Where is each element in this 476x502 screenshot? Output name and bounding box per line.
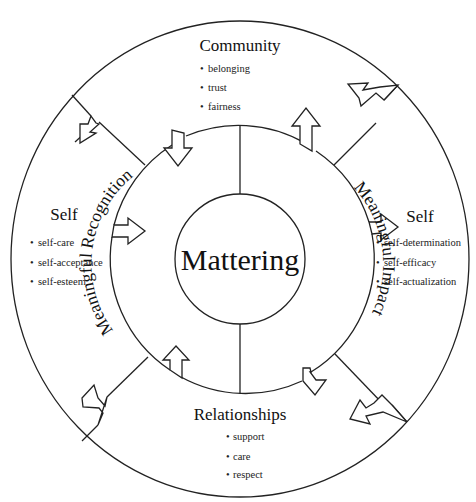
self-left-item: self-acceptance	[38, 257, 103, 268]
bullet-icon: •	[30, 257, 34, 268]
self-left-item: self-esteem	[38, 276, 86, 287]
bullet-icon: •	[200, 101, 204, 112]
community-item: fairness	[208, 101, 241, 112]
bullet-icon: •	[200, 63, 204, 74]
self-left-item: self-care	[38, 237, 74, 248]
bullet-icon: •	[226, 451, 230, 462]
community-item: trust	[208, 82, 227, 93]
connector-upper-left	[99, 122, 145, 165]
arrow-up-top-right	[292, 108, 320, 151]
community-item: belonging	[208, 63, 251, 74]
section-community: Community • belonging • trust • fairness	[199, 36, 281, 112]
bullet-icon: •	[200, 82, 204, 93]
section-title-community: Community	[199, 36, 281, 55]
section-title-relationships: Relationships	[194, 405, 287, 424]
arrow-right-left	[112, 218, 145, 244]
connector-lower-left	[107, 357, 148, 397]
bullet-icon: •	[226, 469, 230, 480]
arrow-curved-upper-right	[348, 83, 398, 106]
bullet-icon: •	[376, 237, 380, 248]
arrow-curved-lower-right	[350, 395, 407, 424]
center-label: Mattering	[181, 243, 299, 276]
self-right-item: self-efficacy	[384, 257, 437, 268]
section-title-self-left: Self	[50, 205, 78, 224]
ring-label-right: Meaningful Impact	[350, 177, 399, 320]
self-right-item: self-actualization	[384, 276, 457, 287]
bullet-icon: •	[376, 257, 380, 268]
arrow-down-bottom-right	[303, 368, 326, 395]
arrow-curved-upper-left	[80, 116, 99, 143]
bullet-icon: •	[30, 237, 34, 248]
relationships-item: care	[233, 451, 251, 462]
relationships-item: support	[233, 431, 265, 442]
self-right-item: self-determination	[384, 237, 462, 248]
section-title-self-right: Self	[406, 207, 434, 226]
arrow-curved-lower-left	[82, 385, 107, 425]
connector-lower-right	[335, 354, 383, 404]
connector-upper-right	[334, 123, 376, 165]
ring-label-left: Meaningful Recognition	[75, 164, 136, 339]
bullet-icon: •	[30, 276, 34, 287]
bullet-icon: •	[226, 431, 230, 442]
mattering-diagram: Mattering Meaningful Recognition Meaning…	[0, 0, 476, 502]
bullet-icon: •	[376, 276, 380, 287]
arrow-up-bottom-left	[163, 346, 189, 378]
section-relationships: Relationships • support • care • respect	[194, 405, 287, 480]
relationships-item: respect	[233, 469, 263, 480]
